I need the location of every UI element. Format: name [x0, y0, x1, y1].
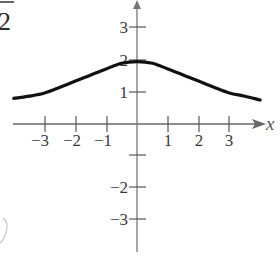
- function-graph: 2 x −3 −2 −1 1 2 3 3 2 1 −2 −3: [0, 0, 280, 279]
- svg-text:−2: −2: [63, 131, 81, 150]
- svg-text:3: 3: [225, 131, 234, 150]
- svg-text:−3: −3: [31, 131, 49, 150]
- svg-text:−3: −3: [110, 210, 128, 229]
- svg-text:1: 1: [120, 83, 129, 102]
- y-axis-arrow-icon: [133, 0, 141, 9]
- svg-text:3: 3: [120, 18, 129, 37]
- x-axis-label: x: [265, 113, 275, 134]
- x-tick-labels: −3 −2 −1 1 2 3: [31, 131, 233, 150]
- svg-text:−1: −1: [94, 131, 112, 150]
- pencil-mark: [0, 218, 7, 243]
- svg-text:2: 2: [195, 131, 204, 150]
- svg-text:−2: −2: [110, 178, 128, 197]
- fragment-text: 2: [0, 7, 11, 36]
- svg-text:2: 2: [120, 51, 129, 70]
- svg-text:1: 1: [164, 131, 173, 150]
